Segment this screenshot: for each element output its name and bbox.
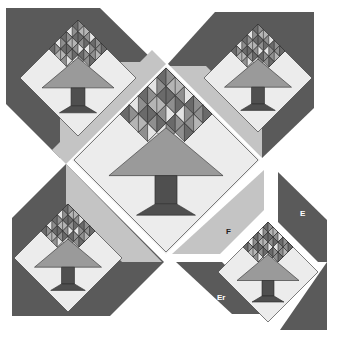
trunk bbox=[155, 176, 177, 205]
quilt-block-svg: F E Er bbox=[0, 0, 337, 340]
trunk bbox=[71, 88, 85, 106]
label-er: Er bbox=[217, 293, 225, 302]
quilt-diagram: F E Er bbox=[0, 0, 337, 340]
trunk bbox=[262, 281, 274, 297]
label-f: F bbox=[226, 227, 231, 236]
trunk bbox=[252, 87, 265, 104]
trunk bbox=[62, 267, 75, 284]
label-e: E bbox=[300, 209, 306, 218]
